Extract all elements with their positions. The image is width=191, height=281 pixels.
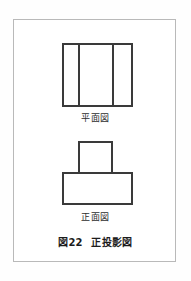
plan-view-divider-line-right bbox=[112, 45, 114, 105]
caption-prefix: 図 bbox=[58, 237, 68, 248]
caption-title: 正投影図 bbox=[91, 237, 132, 248]
plan-view-divider-line-left bbox=[78, 45, 80, 105]
plan-view-label: 平面図 bbox=[0, 111, 191, 124]
front-view-upper-square bbox=[78, 141, 113, 174]
plan-view-rectangle bbox=[62, 43, 133, 107]
front-view-label: 正面図 bbox=[0, 210, 191, 223]
caption-number: 22 bbox=[68, 237, 82, 248]
figure-caption: 図22正投影図 bbox=[0, 234, 191, 249]
figure-page: 平面図 正面図 図22正投影図 bbox=[0, 0, 191, 281]
front-view-base-rectangle bbox=[62, 172, 133, 205]
